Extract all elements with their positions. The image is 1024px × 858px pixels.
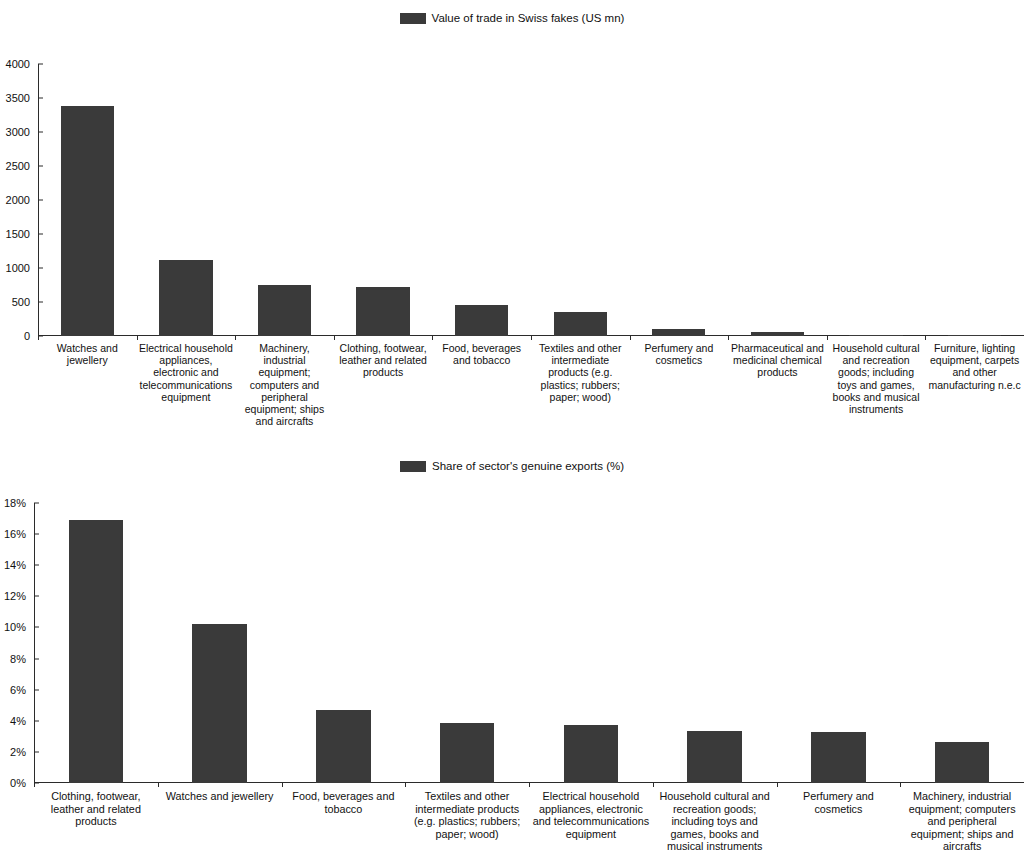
y-axis-tick-mark xyxy=(34,565,39,566)
y-axis-tick-mark xyxy=(38,166,43,167)
x-axis-category-label: Machinery, industrial equipment; compute… xyxy=(235,342,334,427)
y-axis-tick-label: 2% xyxy=(10,746,26,758)
y-axis-tick-mark xyxy=(38,234,43,235)
y-axis-tick-mark xyxy=(34,503,39,504)
y-axis-tick-label: 3500 xyxy=(6,92,30,104)
bar[interactable] xyxy=(455,305,508,336)
bar-slot xyxy=(137,64,236,336)
y-axis-tick-label: 3000 xyxy=(6,126,30,138)
x-axis-category-label: Clothing, footwear, leather and related … xyxy=(34,790,158,853)
y-axis-tick-label: 2000 xyxy=(6,194,30,206)
chart1-legend: Value of trade in Swiss fakes (US mn) xyxy=(0,12,1024,25)
chart1-bars xyxy=(38,64,1024,336)
chart2-plot-area: 0%2%4%6%8%10%12%14%16%18% xyxy=(0,503,1024,783)
y-axis-tick-mark xyxy=(34,596,39,597)
bar[interactable] xyxy=(811,732,865,783)
y-axis-tick-mark xyxy=(34,689,39,690)
bar[interactable] xyxy=(258,285,311,336)
y-axis-tick-mark xyxy=(38,98,43,99)
y-axis-tick-label: 6% xyxy=(10,684,26,696)
legend-swatch-icon xyxy=(400,13,426,24)
bar[interactable] xyxy=(849,335,902,336)
bar[interactable] xyxy=(564,725,618,783)
y-axis-tick-mark xyxy=(34,627,39,628)
x-axis-category-label: Household cultural and recreation goods;… xyxy=(827,342,926,427)
bar-slot xyxy=(432,64,531,336)
x-axis-tick-mark xyxy=(432,336,433,340)
y-axis-tick-mark xyxy=(34,783,39,784)
chart2-legend: Share of sector's genuine exports (%) xyxy=(0,460,1024,473)
bar[interactable] xyxy=(192,624,246,783)
y-axis-tick-mark xyxy=(34,658,39,659)
bar-slot xyxy=(728,64,827,336)
chart2-legend-label: Share of sector's genuine exports (%) xyxy=(432,460,624,473)
x-axis-category-label: Watches and jewellery xyxy=(38,342,137,427)
y-axis-tick-label: 12% xyxy=(4,590,26,602)
x-axis-tick-mark xyxy=(777,783,778,787)
bar[interactable] xyxy=(652,329,705,336)
bar[interactable] xyxy=(159,260,212,337)
y-axis-tick-mark xyxy=(38,132,43,133)
y-axis-tick-label: 18% xyxy=(4,497,26,509)
chart1-plot-area: 05001000150020002500300035004000 xyxy=(0,64,1024,336)
chart2-y-axis: 0%2%4%6%8%10%12%14%16%18% xyxy=(0,503,34,783)
x-axis-tick-mark xyxy=(158,783,159,787)
y-axis-tick-mark xyxy=(38,268,43,269)
y-axis-tick-label: 14% xyxy=(4,559,26,571)
bar-slot xyxy=(827,64,926,336)
x-axis-tick-mark xyxy=(38,336,39,340)
y-axis-tick-mark xyxy=(38,64,43,65)
bar-slot xyxy=(653,503,777,783)
x-axis-tick-mark xyxy=(334,336,335,340)
y-axis-tick-label: 4% xyxy=(10,715,26,727)
y-axis-tick-mark xyxy=(34,534,39,535)
y-axis-tick-label: 4000 xyxy=(6,58,30,70)
x-axis-tick-mark xyxy=(728,336,729,340)
y-axis-tick-label: 500 xyxy=(12,296,30,308)
bar[interactable] xyxy=(356,287,409,336)
x-axis-category-label: Perfumery and cosmetics xyxy=(630,342,729,427)
x-axis-category-label: Perfumery and cosmetics xyxy=(777,790,901,853)
bar-slot xyxy=(38,64,137,336)
x-axis-category-label: Textiles and other intermediate products… xyxy=(531,342,630,427)
x-axis-category-label: Pharmaceutical and medicinal chemical pr… xyxy=(728,342,827,427)
y-axis-tick-mark xyxy=(38,200,43,201)
bar[interactable] xyxy=(440,723,494,783)
y-axis-tick-label: 2500 xyxy=(6,160,30,172)
bar[interactable] xyxy=(948,335,1001,336)
bar-slot xyxy=(900,503,1024,783)
x-axis-category-label: Watches and jewellery xyxy=(158,790,282,853)
x-axis-tick-mark xyxy=(531,336,532,340)
x-axis-category-label: Electrical household appliances, electro… xyxy=(529,790,653,853)
x-axis-category-label: Household cultural and recreation goods;… xyxy=(653,790,777,853)
bar[interactable] xyxy=(554,312,607,336)
x-axis-category-label: Food, beverages and tobacco xyxy=(282,790,406,853)
x-axis-tick-mark xyxy=(405,783,406,787)
bar-slot xyxy=(529,503,653,783)
chart2-x-axis-labels: Clothing, footwear, leather and related … xyxy=(34,790,1024,853)
chart-page: Value of trade in Swiss fakes (US mn) 05… xyxy=(0,0,1024,858)
x-axis-category-label: Food, beverages and tobacco xyxy=(432,342,531,427)
x-axis-tick-mark xyxy=(900,783,901,787)
bar-slot xyxy=(925,64,1024,336)
bar-slot xyxy=(777,503,901,783)
y-axis-tick-label: 8% xyxy=(10,653,26,665)
chart1-y-axis: 05001000150020002500300035004000 xyxy=(0,64,38,336)
bar-slot xyxy=(235,64,334,336)
bar[interactable] xyxy=(935,742,989,783)
x-axis-tick-mark xyxy=(137,336,138,340)
bar[interactable] xyxy=(61,106,114,336)
y-axis-tick-label: 0% xyxy=(10,777,26,789)
x-axis-category-label: Electrical household appliances, electro… xyxy=(137,342,236,427)
bar[interactable] xyxy=(316,710,370,783)
bar[interactable] xyxy=(69,520,123,783)
x-axis-tick-mark xyxy=(282,783,283,787)
x-axis-tick-mark xyxy=(925,336,926,340)
bar-slot xyxy=(158,503,282,783)
y-axis-tick-mark xyxy=(38,302,43,303)
x-axis-category-label: Furniture, lighting equipment, carpets a… xyxy=(925,342,1024,427)
bar[interactable] xyxy=(751,332,804,336)
x-axis-tick-mark xyxy=(653,783,654,787)
bar[interactable] xyxy=(687,731,741,783)
x-axis-category-label: Textiles and other intermediate products… xyxy=(405,790,529,853)
